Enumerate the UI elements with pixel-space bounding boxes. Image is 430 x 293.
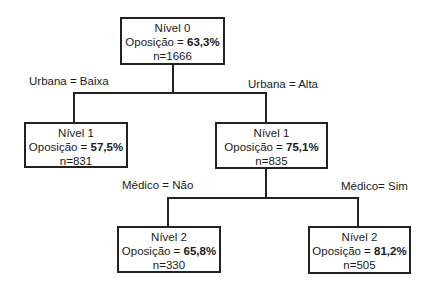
node-metric: Oposição = 57,5%	[26, 140, 126, 154]
node-metric-value: 81,2%	[374, 245, 407, 257]
node-metric: Oposição = 75,1%	[217, 140, 326, 154]
node-metric: Oposição = 65,8%	[119, 244, 219, 258]
tree-node-urbana-baixa: Nível 1 Oposição = 57,5% n=831	[24, 122, 128, 168]
tree-node-root: Nível 0 Oposição = 63,3% n=1666	[120, 17, 225, 65]
node-metric-label: Oposição =	[312, 245, 374, 257]
node-sample-size: n=1666	[122, 49, 223, 63]
tree-node-medico-nao: Nível 2 Oposição = 65,8% n=330	[117, 226, 221, 273]
node-metric: Oposição = 81,2%	[310, 244, 409, 258]
node-level-label: Nível 2	[119, 230, 219, 244]
node-level-label: Nível 2	[310, 230, 409, 244]
connector-root-horizontal	[73, 92, 267, 94]
node-sample-size: n=330	[119, 258, 219, 272]
node-level-label: Nível 0	[122, 21, 223, 35]
connector-to-urbana-alta	[265, 92, 267, 122]
node-metric-value: 65,8%	[184, 245, 217, 257]
node-level-label: Nível 1	[217, 126, 326, 140]
node-metric-label: Oposição =	[29, 141, 91, 153]
node-metric-label: Oposição =	[125, 36, 187, 48]
connector-urbana-alta-stem	[265, 168, 267, 198]
connector-to-medico-nao	[167, 197, 169, 227]
connector-root-stem	[172, 64, 174, 93]
node-level-label: Nível 1	[26, 126, 126, 140]
node-metric-label: Oposição =	[122, 245, 184, 257]
connector-to-medico-sim	[357, 197, 359, 227]
connector-to-urbana-baixa	[73, 92, 75, 122]
node-sample-size: n=835	[217, 154, 326, 168]
edge-label-urbana-alta: Urbana = Alta	[248, 78, 318, 90]
node-sample-size: n=831	[26, 154, 126, 168]
tree-node-urbana-alta: Nível 1 Oposição = 75,1% n=835	[215, 122, 328, 169]
node-metric-label: Oposição =	[224, 141, 286, 153]
node-metric-value: 57,5%	[91, 141, 124, 153]
node-metric-value: 75,1%	[286, 141, 319, 153]
node-sample-size: n=505	[310, 258, 409, 272]
connector-urbana-alta-horizontal	[167, 197, 359, 199]
edge-label-urbana-baixa: Urbana = Baixa	[29, 75, 109, 87]
tree-node-medico-sim: Nível 2 Oposição = 81,2% n=505	[308, 226, 411, 274]
node-metric: Oposição = 63,3%	[122, 35, 223, 49]
node-metric-value: 63,3%	[187, 36, 220, 48]
edge-label-medico-nao: Médico = Não	[122, 179, 193, 191]
edge-label-medico-sim: Médico= Sim	[341, 180, 408, 192]
